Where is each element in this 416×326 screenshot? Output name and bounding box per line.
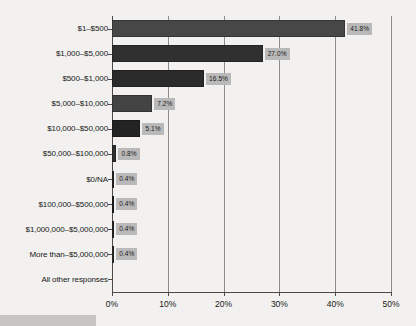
y-axis-labels: $1–$500$1,000–$5,000$500–$1,000$5,000–$1… xyxy=(0,16,108,292)
y-axis-label: $100,000–$500,000 xyxy=(0,192,108,217)
bar-row: 16.5% xyxy=(112,66,391,91)
bar-row: 41.8% xyxy=(112,16,391,41)
bar xyxy=(112,246,114,263)
bar xyxy=(112,120,140,137)
y-axis-label: $500–$1,000 xyxy=(0,66,108,91)
bar xyxy=(112,221,114,238)
bar-row: 5.1% xyxy=(112,116,391,141)
y-axis-label: $1–$500 xyxy=(0,16,108,41)
y-axis-label: $1,000–$5,000 xyxy=(0,41,108,66)
x-tick-mark xyxy=(279,292,280,296)
x-tick-mark xyxy=(224,292,225,296)
bar xyxy=(112,196,114,213)
bar-value-label: 41.8% xyxy=(347,23,372,35)
y-axis-label: $5,000–$10,000 xyxy=(0,91,108,116)
x-axis-label: 30% xyxy=(271,299,288,309)
caption-block xyxy=(0,315,96,326)
y-tick-mark xyxy=(108,279,112,280)
bar xyxy=(112,171,114,188)
bar-row: 0.8% xyxy=(112,141,391,166)
bar-value-label: 0.4% xyxy=(116,223,137,235)
bar xyxy=(112,20,345,37)
bar-row: 27.0% xyxy=(112,41,391,66)
y-tick-mark xyxy=(108,54,112,55)
y-tick-mark xyxy=(108,104,112,105)
y-axis-label: More than–$5,000,000 xyxy=(0,242,108,267)
bar xyxy=(112,45,263,62)
x-axis-label: 20% xyxy=(215,299,232,309)
y-tick-mark xyxy=(108,154,112,155)
bar-value-label: 27.0% xyxy=(265,48,290,60)
bar-row: 0.4% xyxy=(112,167,391,192)
y-tick-mark xyxy=(108,179,112,180)
bar-value-label: 16.5% xyxy=(206,73,231,85)
gridline-50pct xyxy=(391,16,392,292)
y-axis-label: $0/NA xyxy=(0,167,108,192)
x-axis-label: 50% xyxy=(382,299,399,309)
bar-rows: 41.8%27.0%16.5%7.2%5.1%0.8%0.4%0.4%0.4%0… xyxy=(112,16,391,292)
bar-value-label: 0.4% xyxy=(116,173,137,185)
bar xyxy=(112,95,152,112)
y-axis-label: $10,000–$50,000 xyxy=(0,116,108,141)
x-axis-line xyxy=(112,292,391,293)
bar-row: 0.4% xyxy=(112,242,391,267)
y-tick-mark xyxy=(108,79,112,80)
y-tick-mark xyxy=(108,229,112,230)
bar-value-label: 0.8% xyxy=(118,148,139,160)
bar-value-label: 7.2% xyxy=(154,98,175,110)
bar-value-label: 5.1% xyxy=(142,123,163,135)
x-axis-label: 0% xyxy=(106,299,118,309)
y-tick-mark xyxy=(108,204,112,205)
bar-chart-figure: $1–$500$1,000–$5,000$500–$1,000$5,000–$1… xyxy=(0,0,416,326)
bar-value-label: 0.4% xyxy=(116,248,137,260)
bar-value-label: 0.4% xyxy=(116,198,137,210)
plot-area: 41.8%27.0%16.5%7.2%5.1%0.8%0.4%0.4%0.4%0… xyxy=(112,16,391,292)
bar xyxy=(112,145,116,162)
bar-row xyxy=(112,267,391,292)
x-tick-mark xyxy=(391,292,392,296)
x-tick-mark xyxy=(112,292,113,296)
bar xyxy=(112,70,204,87)
y-tick-mark xyxy=(108,29,112,30)
y-axis-label: $50,000–$100,000 xyxy=(0,141,108,166)
bar-row: 7.2% xyxy=(112,91,391,116)
x-axis-label: 40% xyxy=(327,299,344,309)
bar-row: 0.4% xyxy=(112,192,391,217)
x-tick-mark xyxy=(168,292,169,296)
y-axis-label: All other responses xyxy=(0,267,108,292)
y-tick-mark xyxy=(108,254,112,255)
x-tick-mark xyxy=(335,292,336,296)
y-axis-label: $1,000,000–$5,000,000 xyxy=(0,217,108,242)
y-tick-mark xyxy=(108,129,112,130)
bar-row: 0.4% xyxy=(112,217,391,242)
x-axis-label: 10% xyxy=(159,299,176,309)
